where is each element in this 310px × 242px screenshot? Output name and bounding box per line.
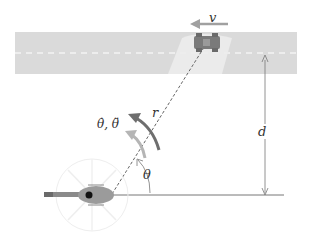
angular-rate-arrow-light — [125, 130, 145, 158]
angular-rate-label: θ̇, θ̈ — [97, 118, 119, 130]
angle-label: θ — [143, 168, 151, 181]
distance-label: d — [258, 124, 266, 139]
velocity-label: v — [209, 11, 216, 24]
road — [15, 32, 297, 74]
diagram-canvas — [0, 0, 310, 242]
range-label: r — [152, 106, 158, 119]
